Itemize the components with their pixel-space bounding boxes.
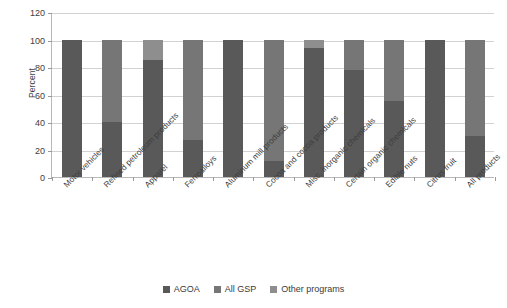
- y-axis-tick-label: 60: [35, 91, 45, 101]
- bar-stack[interactable]: [102, 40, 122, 178]
- bar-group[interactable]: [425, 13, 445, 177]
- bar-segment-agoa[interactable]: [62, 40, 82, 178]
- legend-label: Other programs: [281, 284, 344, 294]
- bar-stack[interactable]: [143, 40, 163, 178]
- bar-group[interactable]: [264, 13, 284, 177]
- bar-stack[interactable]: [264, 40, 284, 178]
- bar-stack[interactable]: [183, 40, 203, 178]
- bar-stack[interactable]: [425, 40, 445, 178]
- bar-group[interactable]: [143, 13, 163, 177]
- legend-swatch-icon: [270, 286, 277, 293]
- legend-swatch-icon: [163, 286, 170, 293]
- legend-label: AGOA: [174, 284, 200, 294]
- bars-layer: [52, 13, 494, 177]
- bar-segment-agoa[interactable]: [304, 48, 324, 177]
- y-axis-tick-label: 20: [35, 146, 45, 156]
- bar-group[interactable]: [62, 13, 82, 177]
- chart-legend: AGOAAll GSPOther programs: [0, 284, 507, 294]
- bar-segment-all-gsp[interactable]: [344, 40, 364, 70]
- bar-segment-all-gsp[interactable]: [183, 40, 203, 140]
- legend-item[interactable]: Other programs: [270, 284, 344, 294]
- stacked-bar-chart: Percent 020406080100120 Motor vehiclesRe…: [0, 0, 507, 308]
- bar-segment-all-gsp[interactable]: [384, 40, 404, 102]
- bar-segment-other-programs[interactable]: [304, 40, 324, 48]
- bar-stack[interactable]: [62, 40, 82, 178]
- bar-segment-all-gsp[interactable]: [465, 40, 485, 136]
- bar-group[interactable]: [223, 13, 243, 177]
- bar-segment-agoa[interactable]: [223, 40, 243, 178]
- y-axis-tick-label: 100: [30, 36, 45, 46]
- y-axis-tick-label: 40: [35, 118, 45, 128]
- y-axis-title: Percent: [27, 53, 37, 113]
- bar-group[interactable]: [183, 13, 203, 177]
- bar-group[interactable]: [102, 13, 122, 177]
- bar-group[interactable]: [465, 13, 485, 177]
- legend-swatch-icon: [214, 286, 221, 293]
- legend-item[interactable]: All GSP: [214, 284, 257, 294]
- y-axis-tick-label: 120: [30, 8, 45, 18]
- legend-item[interactable]: AGOA: [163, 284, 200, 294]
- bar-segment-other-programs[interactable]: [143, 40, 163, 61]
- bar-stack[interactable]: [304, 40, 324, 178]
- x-axis-labels: Motor vehiclesRefined petroleum products…: [0, 179, 507, 274]
- legend-label: All GSP: [225, 284, 257, 294]
- y-axis-tick-label: 80: [35, 63, 45, 73]
- bar-stack[interactable]: [465, 40, 485, 178]
- bar-segment-agoa[interactable]: [425, 40, 445, 178]
- plot-area: 020406080100120: [51, 13, 494, 178]
- bar-segment-all-gsp[interactable]: [102, 40, 122, 123]
- bar-segment-agoa[interactable]: [143, 60, 163, 177]
- bar-segment-agoa[interactable]: [344, 70, 364, 177]
- bar-stack[interactable]: [223, 40, 243, 178]
- bar-stack[interactable]: [384, 40, 404, 178]
- bar-stack[interactable]: [344, 40, 364, 178]
